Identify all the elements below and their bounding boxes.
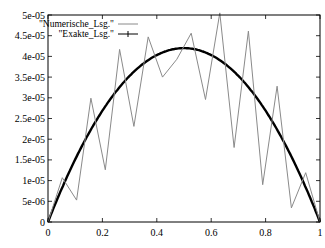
y-tick-label: 3e-05 xyxy=(22,92,45,103)
legend-label-exact: "Exakte_Lsg." xyxy=(58,29,114,39)
y-tick-label: 5e-06 xyxy=(22,196,45,207)
x-tick-label: 0 xyxy=(46,227,51,238)
legend: "Numerische_Lsg." "Exakte_Lsg." xyxy=(39,19,138,39)
x-tick-label: 0.2 xyxy=(96,227,109,238)
exact-solution-line xyxy=(48,48,320,222)
y-tick-label: 2.5e-05 xyxy=(15,113,45,124)
y-tick-label: 0 xyxy=(40,217,45,228)
y-tick-label: 4e-05 xyxy=(22,51,45,62)
x-tick-label: 0.6 xyxy=(205,227,218,238)
y-tick-label: 1.5e-05 xyxy=(15,154,45,165)
y-tick-label: 1e-05 xyxy=(22,175,45,186)
line-chart: 05e-061e-051.5e-052e-052.5e-053e-053.5e-… xyxy=(0,0,325,248)
legend-label-numeric: "Numerische_Lsg." xyxy=(39,19,114,29)
x-tick-label: 0.8 xyxy=(259,227,272,238)
y-tick-label: 2e-05 xyxy=(22,134,45,145)
y-axis-ticks: 05e-061e-051.5e-052e-052.5e-053e-053.5e-… xyxy=(15,10,320,228)
numeric-solution-line xyxy=(48,13,320,222)
y-tick-label: 3.5e-05 xyxy=(15,72,45,83)
y-tick-label: 4.5e-05 xyxy=(15,30,45,41)
x-tick-label: 1 xyxy=(318,227,323,238)
x-tick-label: 0.4 xyxy=(151,227,164,238)
